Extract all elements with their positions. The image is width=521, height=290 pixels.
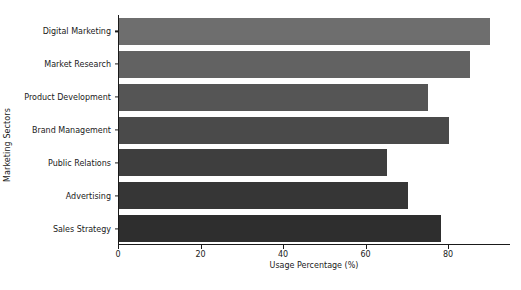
bar [119,182,408,209]
x-tick-label: 20 [195,250,205,259]
x-axis-title: Usage Percentage (%) [118,261,510,270]
bar-chart-figure: Marketing Sectors Digital MarketingMarke… [0,0,521,290]
x-axis-tick-labels: 020406080 [118,245,510,275]
bar [119,215,441,242]
x-tick-mark [201,245,202,249]
y-tick-label: Digital Marketing [0,27,111,36]
x-tick-label: 80 [443,250,453,259]
x-tick-label: 0 [115,250,120,259]
bar [119,117,449,144]
y-tick-label: Product Development [0,93,111,102]
bar [119,18,490,45]
y-tick-label: Sales Strategy [0,224,111,233]
y-tick-label: Brand Management [0,126,111,135]
y-tick-label: Market Research [0,60,111,69]
y-axis-tick-labels: Digital MarketingMarket ResearchProduct … [0,15,118,245]
y-tick-label: Public Relations [0,158,111,167]
bar [119,149,387,176]
x-tick-label: 60 [360,250,370,259]
bars-layer [119,15,510,244]
plot-area [118,15,510,245]
bar [119,84,428,111]
bar [119,51,470,78]
x-tick-mark [118,245,119,249]
x-tick-mark [448,245,449,249]
x-tick-label: 40 [278,250,288,259]
x-tick-mark [283,245,284,249]
y-tick-label: Advertising [0,191,111,200]
x-tick-mark [366,245,367,249]
